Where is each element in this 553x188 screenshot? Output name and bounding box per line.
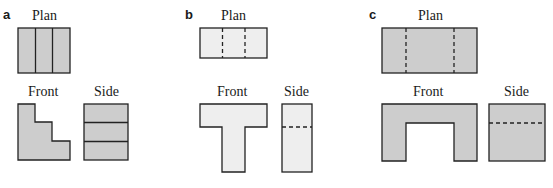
panel-b: b Plan Front Side [185,7,312,172]
side-caption: Side [94,84,119,99]
panel-c: c Plan Front Side [369,7,545,161]
side-view [282,104,312,172]
side-view [84,104,128,160]
front-view [382,104,477,161]
plan-view [18,28,70,73]
side-view [489,104,545,161]
orthographic-projections-figure: a Plan Front Side b Plan Front Side [0,0,553,188]
panel-label: b [185,7,193,22]
plan-caption: Plan [221,8,246,23]
plan-view [200,28,267,58]
plan-caption: Plan [32,8,57,23]
front-caption: Front [217,84,247,99]
side-caption: Side [504,84,529,99]
front-view [200,104,267,172]
side-caption: Side [284,84,309,99]
front-caption: Front [28,84,58,99]
panel-a: a Plan Front Side [3,7,128,160]
plan-view [382,28,477,73]
front-view [18,104,70,160]
front-caption: Front [413,84,443,99]
panel-label: a [3,7,11,22]
panel-label: c [369,7,376,22]
plan-caption: Plan [418,8,443,23]
